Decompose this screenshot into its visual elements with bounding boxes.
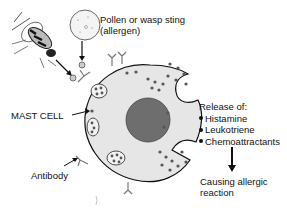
allergen-label-line1: Pollen or wasp sting bbox=[100, 14, 185, 25]
mediator-item: Chemoattractants bbox=[199, 136, 280, 148]
pollen-grain-icon bbox=[70, 10, 100, 40]
wasp-icon bbox=[12, 12, 56, 68]
mediator-list: Release of: Histamine Leukotriene Chemoa… bbox=[199, 101, 280, 147]
mediator-item: Histamine bbox=[199, 113, 280, 125]
mast-cell-icon bbox=[85, 62, 202, 181]
mast-cell-label: MAST CELL bbox=[11, 110, 64, 121]
antibody-label: Antibody bbox=[31, 170, 68, 181]
outcome-label-line2: reaction bbox=[200, 187, 234, 198]
allergen-label-line2: (allergen) bbox=[100, 25, 140, 36]
bullet-icon bbox=[199, 139, 203, 143]
bullet-icon bbox=[199, 128, 203, 132]
bullet-icon bbox=[199, 116, 203, 120]
release-title: Release of: bbox=[199, 101, 280, 113]
mast-cell-allergy-diagram: Pollen or wasp sting (allergen) MAST CEL… bbox=[0, 0, 287, 208]
mediator-item: Leukotriene bbox=[199, 124, 280, 136]
outcome-label-line1: Causing allergic bbox=[200, 176, 268, 187]
